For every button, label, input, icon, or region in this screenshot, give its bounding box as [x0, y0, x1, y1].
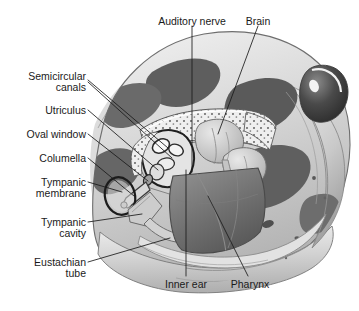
- skin-speckle-4: [324, 197, 327, 200]
- label-oval-window: Oval window: [0, 129, 86, 141]
- pharynx-cavity: [170, 168, 266, 253]
- skin-speckle-3: [312, 176, 316, 180]
- label-inner-ear: Inner ear: [152, 279, 220, 291]
- label-tympanic-cavity-line2: cavity: [0, 228, 86, 240]
- label-tympanic-membrane-line2: membrane: [0, 188, 86, 200]
- label-pharynx: Pharynx: [222, 279, 278, 291]
- label-auditory-nerve: Auditory nerve: [148, 16, 236, 28]
- label-utriculus: Utriculus: [0, 105, 86, 117]
- label-columella: Columella: [0, 153, 86, 165]
- anatomy-figure: Auditory nerve Brain Semicircular canals…: [0, 0, 359, 311]
- label-semicircular-canals-line2: canals: [0, 82, 86, 94]
- label-brain: Brain: [235, 16, 281, 28]
- label-eustachian-tube-line2: tube: [0, 268, 86, 280]
